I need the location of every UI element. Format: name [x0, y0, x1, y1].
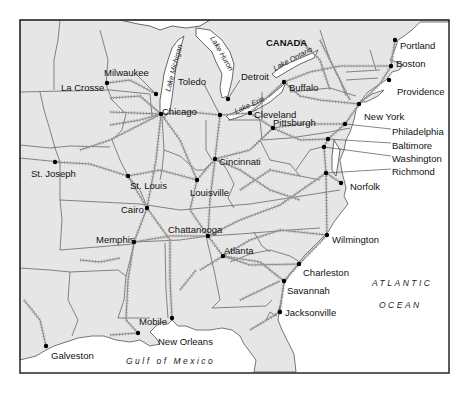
cincinnati-label: Cincinnati [219, 156, 261, 167]
new-york-marker [357, 102, 361, 106]
new-york-label: New York [364, 111, 404, 122]
charleston-marker [297, 262, 301, 266]
toledo-label: Toledo [178, 76, 206, 87]
mobile-label: Mobile [139, 316, 167, 327]
buffalo-marker [282, 80, 286, 84]
baltimore-label: Baltimore [392, 140, 432, 151]
st-louis-label: St. Louis [130, 180, 167, 191]
map-canvas: PortlandBostonProvidenceMilwaukeeLa Cros… [0, 0, 469, 398]
detroit-marker [226, 97, 230, 101]
galveston-label: Galveston [51, 350, 94, 361]
detroit-label: Detroit [241, 71, 269, 82]
norfolk-label: Norfolk [350, 181, 380, 192]
pittsburgh-label: Pittsburgh [273, 117, 316, 128]
philadelphia-label: Philadelphia [392, 126, 444, 137]
chicago-label: Chicago [162, 106, 197, 117]
louisville-label: Louisville [190, 187, 229, 198]
la-crosse-label: La Crosse [61, 82, 104, 93]
gulf-label: Gulf of Mexico [126, 356, 215, 366]
toledo-marker [218, 113, 222, 117]
canada-label: CANADA [266, 37, 307, 48]
charleston-label: Charleston [303, 267, 349, 278]
jacksonville-label: Jacksonville [285, 307, 336, 318]
st-joseph-label: St. Joseph [31, 168, 76, 179]
milwaukee-marker [154, 92, 158, 96]
wilmington-marker [325, 233, 329, 237]
cairo-marker [145, 206, 149, 210]
cairo-label: Cairo [121, 204, 144, 215]
portland-marker [393, 38, 397, 42]
richmond-label: Richmond [392, 166, 435, 177]
baltimore-marker [326, 137, 330, 141]
st-joseph-marker [53, 160, 57, 164]
louisville-marker [195, 178, 199, 182]
buffalo-label: Buffalo [289, 82, 318, 93]
st-louis-marker [126, 174, 130, 178]
region-labels: CANADA [266, 37, 307, 48]
washington-marker [322, 145, 326, 149]
milwaukee-label: Milwaukee [104, 67, 149, 78]
chattanooga-label: Chattanooga [168, 224, 223, 235]
providence-label: Providence [397, 86, 445, 97]
boston-label: Boston [396, 58, 426, 69]
atlantic-1-label: ATLANTIC [371, 278, 432, 288]
atlanta-label: Atlanta [224, 245, 254, 256]
philadelphia-marker [343, 122, 347, 126]
railroad-map: PortlandBostonProvidenceMilwaukeeLa Cros… [0, 0, 469, 398]
providence-marker [387, 78, 391, 82]
richmond-marker [324, 171, 328, 175]
memphis-label: Memphis [96, 234, 135, 245]
savannah-label: Savannah [287, 285, 330, 296]
new-orleans-marker [136, 331, 140, 335]
new-orleans-label: New Orleans [158, 336, 213, 347]
jacksonville-marker [278, 310, 282, 314]
cleveland-marker [248, 111, 252, 115]
wilmington-label: Wilmington [332, 234, 379, 245]
washington-label: Washington [392, 153, 442, 164]
atlantic-2-label: OCEAN [379, 300, 422, 310]
mobile-marker [170, 316, 174, 320]
la-crosse-marker [105, 81, 109, 85]
galveston-marker [44, 344, 48, 348]
portland-label: Portland [400, 40, 435, 51]
boston-marker [389, 64, 393, 68]
savannah-marker [282, 279, 286, 283]
cincinnati-marker [213, 157, 217, 161]
norfolk-marker [339, 181, 343, 185]
